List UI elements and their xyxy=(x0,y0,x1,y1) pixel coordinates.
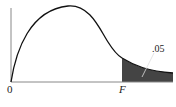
x-tick-critical-value: F xyxy=(119,84,126,95)
x-tick-origin: 0 xyxy=(7,84,13,95)
tail-area-annotation: .05 xyxy=(152,44,165,54)
f-distribution-chart xyxy=(0,0,176,107)
